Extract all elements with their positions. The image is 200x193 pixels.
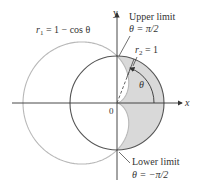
upper-limit-title: Upper limit xyxy=(129,11,176,22)
upper-limit-leader xyxy=(119,36,130,56)
lower-limit-value: θ = −π/2 xyxy=(132,169,168,180)
y-axis-label: y xyxy=(113,7,118,18)
theta-label: θ xyxy=(139,79,144,90)
r1-label: r1 = 1 − cos θ xyxy=(36,24,91,37)
lower-limit-leader xyxy=(119,152,130,163)
r2-label: r2 = 1 xyxy=(135,44,158,57)
x-axis-label: x xyxy=(184,97,190,108)
origin-label: 0 xyxy=(109,106,114,116)
upper-limit-value: θ = π/2 xyxy=(129,23,158,34)
lower-limit-title: Lower limit xyxy=(132,156,180,167)
polar-diagram: r1 = 1 − cos θ y Upper limit θ = π/2 r2 … xyxy=(0,0,200,193)
